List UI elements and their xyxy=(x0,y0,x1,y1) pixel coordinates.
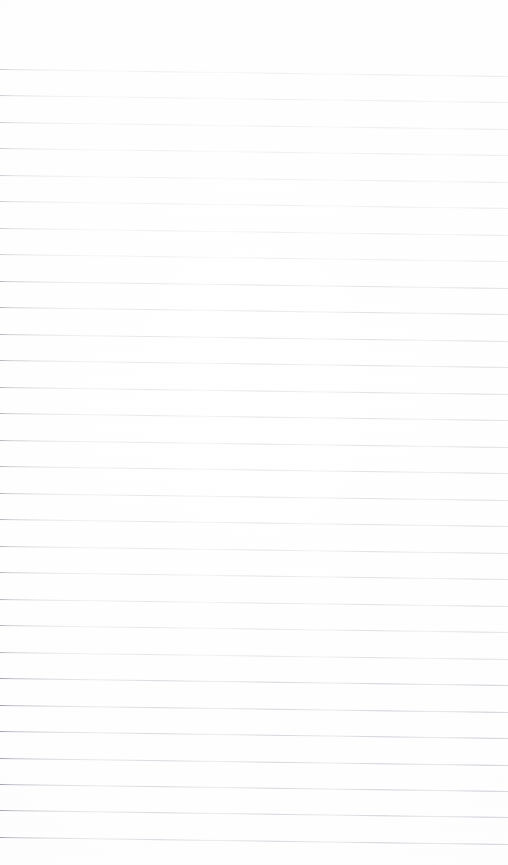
rule-line xyxy=(0,493,508,501)
rule-line xyxy=(0,519,508,527)
rule-line xyxy=(0,175,508,183)
rule-line xyxy=(0,784,508,792)
rule-line xyxy=(0,625,508,633)
rule-line xyxy=(0,546,508,554)
rule-line xyxy=(0,122,508,130)
lined-paper-page xyxy=(0,0,508,865)
rule-line xyxy=(0,281,508,289)
rule-line xyxy=(0,334,508,342)
rule-line xyxy=(0,228,508,236)
rule-line xyxy=(0,731,508,739)
rule-line xyxy=(0,148,508,156)
rule-line xyxy=(0,810,508,818)
rule-line xyxy=(0,599,508,607)
rule-line xyxy=(0,360,508,368)
rule-line xyxy=(0,413,508,421)
rule-line xyxy=(0,758,508,766)
rule-line xyxy=(0,652,508,660)
rule-line xyxy=(0,837,508,845)
rule-line xyxy=(0,466,508,474)
rule-line xyxy=(0,95,508,103)
rule-line xyxy=(0,307,508,315)
rule-line xyxy=(0,440,508,448)
rule-line xyxy=(0,254,508,262)
rule-line xyxy=(0,201,508,209)
rule-line xyxy=(0,387,508,395)
rule-line xyxy=(0,69,508,77)
rule-line xyxy=(0,705,508,713)
rule-line xyxy=(0,572,508,580)
rule-line xyxy=(0,678,508,686)
ruled-lines-layer xyxy=(0,0,508,865)
